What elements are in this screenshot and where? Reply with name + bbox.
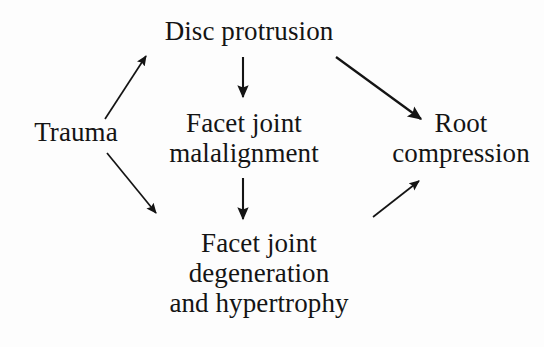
node-facet-joint-degeneration-line-1: Facet joint bbox=[148, 228, 370, 258]
node-disc-protrusion: Disc protrusion bbox=[153, 16, 345, 46]
node-facet-joint-malalignment: Facet joint malalignment bbox=[148, 108, 340, 168]
node-trauma-line-1: Trauma bbox=[0, 117, 152, 147]
node-trauma: Trauma bbox=[0, 117, 152, 147]
node-facet-joint-degeneration-line-3: and hypertrophy bbox=[148, 288, 370, 318]
arrow-facet-degeneration-to-root-compression bbox=[373, 181, 419, 217]
node-disc-protrusion-line-1: Disc protrusion bbox=[153, 16, 345, 46]
flow-diagram: Trauma Disc protrusion Facet joint malal… bbox=[0, 0, 544, 347]
arrow-trauma-to-disc-protrusion bbox=[105, 56, 146, 119]
node-root-compression-line-2: compression bbox=[382, 138, 540, 168]
node-facet-joint-degeneration-line-2: degeneration bbox=[148, 258, 370, 288]
node-facet-joint-degeneration: Facet joint degeneration and hypertrophy bbox=[148, 228, 370, 318]
node-facet-joint-malalignment-line-2: malalignment bbox=[148, 138, 340, 168]
node-root-compression-line-1: Root bbox=[382, 108, 540, 138]
node-facet-joint-malalignment-line-1: Facet joint bbox=[148, 108, 340, 138]
node-root-compression: Root compression bbox=[382, 108, 540, 168]
